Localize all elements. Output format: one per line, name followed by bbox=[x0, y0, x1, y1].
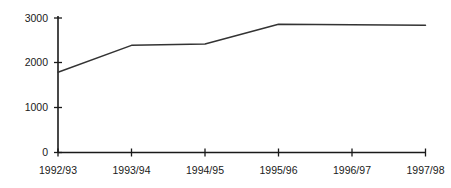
x-axis-label-1992-93: 1992/93 bbox=[18, 165, 98, 176]
x-axis-label-1993-94: 1993/94 bbox=[92, 165, 172, 176]
data-series-line bbox=[58, 24, 426, 72]
x-axis-label-1997-98: 1997/98 bbox=[386, 165, 451, 176]
line-chart: 3000 2000 1000 0 1992/93 1993/94 1994/95… bbox=[0, 0, 451, 188]
x-axis-label-1996-97: 1996/97 bbox=[312, 165, 392, 176]
y-axis-label-0: 0 bbox=[8, 147, 48, 158]
x-axis-label-1994-95: 1994/95 bbox=[165, 165, 245, 176]
y-axis-label-1000: 1000 bbox=[8, 102, 48, 113]
y-axis-label-2000: 2000 bbox=[8, 57, 48, 68]
x-axis-label-1995-96: 1995/96 bbox=[239, 165, 319, 176]
chart-plot-area bbox=[0, 0, 451, 188]
y-axis-label-3000: 3000 bbox=[8, 13, 48, 24]
